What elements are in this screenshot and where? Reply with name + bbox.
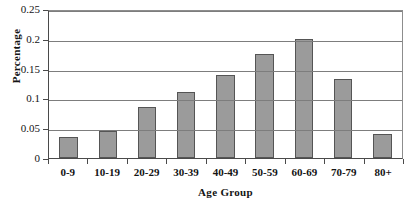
y-tick-mark [43, 10, 48, 11]
gridline [49, 71, 402, 72]
plot-area [48, 10, 403, 159]
x-tick-mark [166, 159, 167, 164]
x-tick-mark [206, 159, 207, 164]
bar-slot [284, 11, 323, 158]
x-tick-label: 0-9 [48, 166, 87, 178]
y-tick-mark [43, 70, 48, 71]
x-axis-title: Age Group [48, 186, 403, 198]
y-axis-tick-labels: 00.050.10.150.20.25 [0, 0, 44, 205]
bar [59, 137, 77, 158]
bar-slot [88, 11, 127, 158]
x-tick-label: 60-69 [285, 166, 324, 178]
x-tick-label: 30-39 [166, 166, 205, 178]
bar [138, 107, 156, 158]
bar-slot [49, 11, 88, 158]
x-axis-tick-marks [48, 159, 403, 164]
x-tick-mark [324, 159, 325, 164]
bar [255, 54, 273, 158]
bar [334, 79, 352, 158]
x-tick-mark [127, 159, 128, 164]
x-tick-mark [285, 159, 286, 164]
bar-slot [324, 11, 363, 158]
x-tick-label: 50-59 [245, 166, 284, 178]
gridline [49, 130, 402, 131]
y-tick-label: 0 [35, 153, 41, 164]
y-tick-label: 0.15 [21, 64, 40, 75]
bar [177, 92, 195, 158]
x-tick-label: 70-79 [324, 166, 363, 178]
bar-slot [127, 11, 166, 158]
bar [373, 134, 391, 158]
y-tick-label: 0.1 [26, 93, 40, 104]
x-axis-tick-labels: 0-910-1920-2930-3940-4950-5960-6970-7980… [48, 166, 403, 178]
y-tick-mark [43, 40, 48, 41]
bar-slot [363, 11, 402, 158]
x-tick-mark [87, 159, 88, 164]
x-tick-mark [245, 159, 246, 164]
bar-series [49, 11, 402, 158]
x-tick-label: 20-29 [127, 166, 166, 178]
y-tick-mark [43, 129, 48, 130]
gridline [49, 41, 402, 42]
bar-slot [206, 11, 245, 158]
y-tick-label: 0.2 [26, 34, 40, 45]
bar-chart-figure: Percentage 00.050.10.150.20.25 0-910-192… [0, 0, 414, 205]
bar-slot [245, 11, 284, 158]
y-tick-label: 0.05 [21, 123, 40, 134]
x-tick-mark [364, 159, 365, 164]
y-tick-label: 0.25 [21, 4, 40, 15]
y-tick-mark [43, 159, 48, 160]
gridline [49, 11, 402, 12]
bar [295, 39, 313, 158]
x-tick-mark [48, 159, 49, 164]
x-tick-label: 40-49 [206, 166, 245, 178]
bar-slot [167, 11, 206, 158]
y-tick-mark [43, 99, 48, 100]
x-tick-label: 80+ [364, 166, 403, 178]
bar [99, 131, 117, 158]
gridline [49, 100, 402, 101]
x-tick-label: 10-19 [87, 166, 126, 178]
x-tick-mark [403, 159, 404, 164]
bar [216, 75, 234, 158]
